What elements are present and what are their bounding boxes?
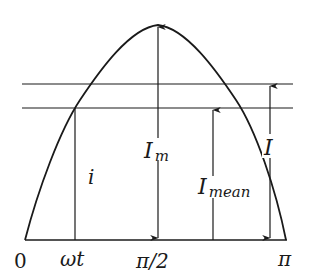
tick-label-omega-t: ωt [60, 247, 85, 271]
instantaneous-label: i [88, 165, 94, 189]
tick-label-zero: 0 [14, 249, 27, 273]
sine-curve [25, 25, 286, 240]
tick-label-pi: π [277, 247, 292, 271]
tick-label-pi-half: π/2 [135, 249, 169, 273]
waveform-diagram: i Im Imean I 0 ωt π/2 π [0, 0, 309, 278]
effective-label: I [263, 135, 274, 160]
